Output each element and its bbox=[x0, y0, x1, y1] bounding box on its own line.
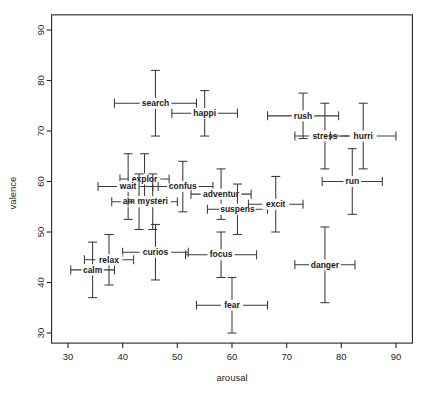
x-tick-label: 80 bbox=[336, 351, 347, 362]
point-label: adventur bbox=[203, 189, 240, 199]
point-label: rush bbox=[294, 111, 312, 121]
y-tick-label: 90 bbox=[35, 25, 46, 36]
point-label: mysteri bbox=[138, 196, 168, 206]
data-point-focus: focus bbox=[186, 232, 257, 277]
data-point-fear: fear bbox=[196, 277, 267, 333]
x-axis-title: arousal bbox=[216, 372, 247, 383]
y-tick-label: 40 bbox=[35, 277, 46, 288]
point-label: calm bbox=[83, 265, 103, 275]
point-label: run bbox=[345, 176, 359, 186]
point-label: focus bbox=[210, 249, 233, 259]
point-label: search bbox=[142, 98, 169, 108]
point-label: suspens bbox=[220, 204, 255, 214]
data-point-danger: danger bbox=[295, 227, 355, 303]
scatter-plot-figure: 30405060708090 30405060708090 searchhapp… bbox=[0, 0, 428, 396]
y-tick-label: 80 bbox=[35, 75, 46, 86]
x-tick-label: 30 bbox=[63, 351, 74, 362]
point-label: danger bbox=[311, 260, 340, 270]
point-label: wait bbox=[119, 181, 137, 191]
x-tick-label: 50 bbox=[172, 351, 183, 362]
point-label: happi bbox=[193, 108, 216, 118]
y-axis-ticks: 30405060708090 bbox=[35, 25, 51, 339]
data-points-group: searchhappirushstresshurriconfusexplorwa… bbox=[71, 70, 396, 333]
x-tick-label: 60 bbox=[227, 351, 238, 362]
data-point-calm: calm bbox=[71, 242, 115, 298]
data-point-curios: curios bbox=[123, 224, 189, 280]
x-tick-label: 40 bbox=[117, 351, 128, 362]
data-point-happi: happi bbox=[172, 91, 238, 136]
point-label: curios bbox=[143, 247, 169, 257]
data-point-search: search bbox=[114, 70, 196, 136]
x-tick-label: 90 bbox=[391, 351, 402, 362]
plot-canvas: 30405060708090 30405060708090 searchhapp… bbox=[0, 0, 428, 396]
point-label: confus bbox=[169, 181, 197, 191]
data-point-wait: wait bbox=[98, 154, 158, 220]
y-axis-title: valence bbox=[7, 177, 18, 210]
x-tick-label: 70 bbox=[281, 351, 292, 362]
data-point-run: run bbox=[322, 149, 382, 215]
y-tick-label: 30 bbox=[35, 328, 46, 339]
x-axis-ticks: 30405060708090 bbox=[63, 343, 402, 362]
y-tick-label: 50 bbox=[35, 227, 46, 238]
y-tick-label: 70 bbox=[35, 126, 46, 137]
y-tick-label: 60 bbox=[35, 176, 46, 187]
point-label: relax bbox=[99, 255, 119, 265]
point-label: excit bbox=[266, 199, 286, 209]
data-point-excit: excit bbox=[248, 176, 303, 232]
point-label: hurri bbox=[354, 131, 373, 141]
point-label: fear bbox=[224, 300, 240, 310]
data-point-hurri: hurri bbox=[330, 103, 396, 169]
